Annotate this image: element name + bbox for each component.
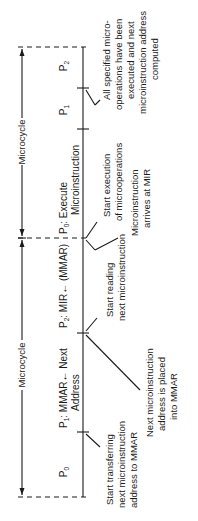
microcycle-label: Microcycle — [16, 120, 27, 165]
svg-text:arrives at MIR: arrives at MIR — [141, 169, 152, 228]
svg-text:address to MMAR: address to MMAR — [128, 432, 139, 508]
microcycle-span-second: Microcycle — [16, 49, 27, 238]
svg-text:into MMAR: into MMAR — [168, 373, 179, 420]
svg-text:All specified micro-: All specified micro- — [101, 20, 112, 100]
svg-text:of microoperations: of microoperations — [113, 143, 124, 221]
svg-text:Microinstruction: Microinstruction — [129, 169, 140, 236]
annotation-arrives-at-mir: Microinstruction arrives at MIR — [129, 169, 152, 236]
svg-text:next microinstruction: next microinstruction — [116, 234, 127, 321]
phase-p2-second: P2 — [58, 60, 70, 71]
phase-p2-first: P2: MIR← (MMAR) — [58, 244, 70, 328]
arrow-down-icon — [20, 488, 25, 495]
arrow-up-icon — [20, 240, 25, 247]
phase-p1-first-line2: Address — [70, 374, 81, 411]
annotation-start-reading: Start reading next microinstruction — [104, 234, 127, 321]
arrow-down-icon — [20, 229, 25, 236]
svg-text:Next microinstruction: Next microinstruction — [144, 348, 155, 437]
phase-p0-second-line2: Microinstruction — [70, 145, 81, 215]
svg-text:operations have been: operations have been — [113, 19, 124, 110]
arrow-up-icon — [20, 49, 25, 56]
annotation-all-executed: All specified micro- operations have bee… — [101, 11, 160, 114]
microcycle-label: Microcycle — [16, 343, 27, 388]
svg-text:address is placed: address is placed — [156, 357, 167, 431]
svg-text:computed: computed — [149, 38, 160, 80]
phase-p0-first: P0 — [58, 466, 70, 477]
svg-text:Start transferring: Start transferring — [104, 434, 115, 505]
svg-text:next microinstruction: next microinstruction — [116, 421, 127, 508]
microcycle-span-first: Microcycle — [16, 240, 27, 495]
svg-text:executed and next: executed and next — [125, 21, 136, 99]
annotation-start-transferring: Start transferring next microinstruction… — [104, 421, 139, 508]
microcycle-timing-diagram: Microcycle Microcycle P0 P1: MMAR← Next … — [0, 0, 198, 521]
phase-p1-second: P1 — [58, 104, 70, 115]
svg-text:Start reading: Start reading — [104, 263, 115, 317]
annotation-next-address-placed: Next microinstruction address is placed … — [144, 348, 179, 437]
annotation-start-execution: Start execution of microoperations — [101, 143, 124, 221]
svg-text:Start execution: Start execution — [101, 154, 112, 217]
phase-p1-first: P1: MMAR← Next — [58, 348, 70, 428]
svg-text:microinstruction address: microinstruction address — [137, 11, 148, 114]
phase-p0-second: P0: Execute — [58, 182, 70, 234]
